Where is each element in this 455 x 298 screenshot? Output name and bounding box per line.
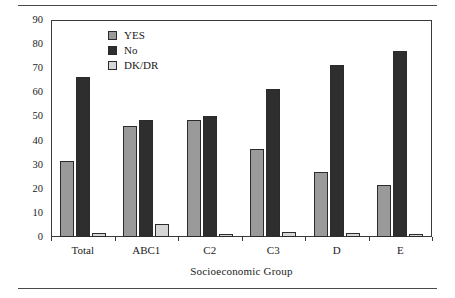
y-tick-label: 40: [33, 135, 44, 146]
legend-item-yes: YES: [108, 29, 158, 42]
bottom-rule: [18, 288, 437, 289]
y-tick-label: 70: [33, 63, 44, 74]
y-axis-ticks: 0102030405060708090: [0, 20, 51, 237]
legend-item-no: No: [108, 44, 158, 57]
x-tick-label-e: E: [397, 244, 404, 256]
x-tick-mark: [305, 237, 306, 241]
legend-swatch-icon: [108, 61, 117, 70]
x-tick-label-c3: C3: [267, 244, 280, 256]
y-tick-label: 10: [33, 208, 44, 219]
legend-swatch-icon: [108, 46, 117, 55]
y-tick-label: 30: [33, 159, 44, 170]
legend-label: YES: [124, 30, 145, 41]
legend-swatch-icon: [108, 31, 117, 40]
x-axis-ticks: TotalABC1C2C3DE: [51, 237, 432, 267]
x-tick-label-c2: C2: [203, 244, 216, 256]
legend-label: DK/DR: [124, 60, 158, 71]
legend-label: No: [124, 45, 137, 56]
legend-item-dk-dr: DK/DR: [108, 59, 158, 72]
y-tick-label: 80: [33, 39, 44, 50]
x-tick-label-abc1: ABC1: [132, 244, 160, 256]
y-tick-label: 90: [33, 15, 44, 26]
y-tick-label: 50: [33, 111, 44, 122]
x-tick-label-total: Total: [72, 244, 94, 256]
x-tick-mark: [51, 237, 52, 241]
x-tick-mark: [178, 237, 179, 241]
x-tick-mark: [432, 237, 433, 241]
y-tick-label: 60: [33, 87, 44, 98]
x-tick-mark: [369, 237, 370, 241]
y-tick-label: 20: [33, 184, 44, 195]
x-axis-title: Socioeconomic Group: [51, 265, 432, 277]
figure: Percentage 0102030405060708090 YESNoDK/D…: [0, 0, 455, 298]
y-tick-label: 0: [38, 232, 43, 243]
x-tick-label-d: D: [333, 244, 341, 256]
chart-legend: YESNoDK/DR: [108, 29, 158, 74]
top-rule: [18, 5, 437, 6]
x-tick-mark: [242, 237, 243, 241]
x-tick-mark: [115, 237, 116, 241]
